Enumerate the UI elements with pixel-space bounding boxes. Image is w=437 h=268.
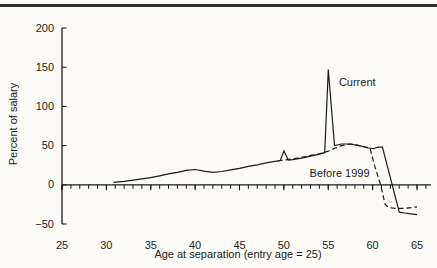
x-tick-label: 40 bbox=[189, 239, 201, 251]
y-tick-label: −50 bbox=[35, 218, 54, 230]
x-tick-label: 30 bbox=[100, 239, 112, 251]
y-tick-label: 50 bbox=[42, 139, 54, 151]
x-tick-label: 25 bbox=[56, 239, 68, 251]
y-axis-title: Percent of salary bbox=[7, 82, 19, 165]
x-tick-label: 55 bbox=[322, 239, 334, 251]
y-tick-label: 150 bbox=[36, 61, 54, 73]
x-tick-label: 45 bbox=[233, 239, 245, 251]
annotation-current: Current bbox=[339, 76, 376, 88]
x-tick-label: 60 bbox=[367, 239, 379, 251]
y-tick-label: 100 bbox=[36, 100, 54, 112]
annotation-before-1999: Before 1999 bbox=[310, 167, 370, 179]
y-tick-label: 0 bbox=[48, 178, 54, 190]
x-tick-label: 65 bbox=[411, 239, 423, 251]
salary-line-chart: Percent of salary Age at separation (ent… bbox=[0, 0, 437, 268]
x-tick-label: 35 bbox=[145, 239, 157, 251]
y-tick-label: 200 bbox=[36, 22, 54, 34]
series-line-current bbox=[114, 70, 418, 215]
figure-panel: Percent of salary Age at separation (ent… bbox=[0, 0, 437, 268]
x-tick-label: 50 bbox=[278, 239, 290, 251]
